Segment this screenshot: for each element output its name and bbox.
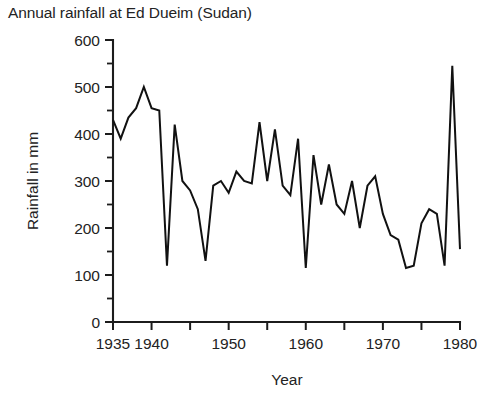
rainfall-series-line: [113, 66, 460, 268]
x-axis-ticks: [113, 322, 460, 330]
x-axis-tick-labels: 193519401950196019701980: [96, 335, 478, 352]
y-tick-label-300: 300: [74, 173, 100, 190]
y-tick-label-600: 600: [74, 32, 100, 49]
chart-figure: Annual rainfall at Ed Dueim (Sudan) 0100…: [0, 0, 486, 396]
y-tick-label-400: 400: [74, 126, 100, 143]
axes: [113, 40, 460, 322]
x-axis-title: Year: [271, 371, 302, 388]
y-tick-label-500: 500: [74, 79, 100, 96]
x-tick-label-1970: 1970: [366, 335, 401, 352]
x-tick-label-1950: 1950: [211, 335, 246, 352]
y-axis-ticks: [105, 40, 113, 322]
y-axis-title: Rainfall in mm: [24, 132, 41, 230]
y-axis-tick-labels: 0100200300400500600: [74, 32, 100, 331]
rainfall-line-chart: 0100200300400500600 19351940195019601970…: [0, 0, 486, 396]
x-tick-label-1980: 1980: [443, 335, 478, 352]
x-tick-label-1960: 1960: [289, 335, 324, 352]
y-tick-label-200: 200: [74, 220, 100, 237]
x-tick-label-1940: 1940: [134, 335, 169, 352]
y-tick-label-0: 0: [91, 314, 100, 331]
y-tick-label-100: 100: [74, 267, 100, 284]
x-tick-label-1935: 1935: [96, 335, 130, 352]
